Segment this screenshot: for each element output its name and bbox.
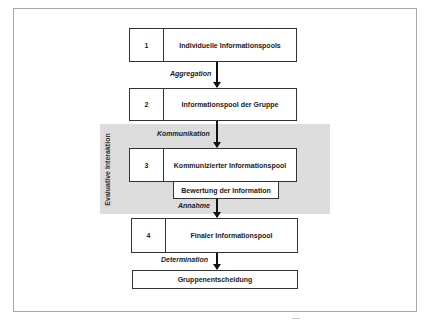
region-label: Evaluative Interaktion <box>100 124 114 214</box>
arrow-down-icon <box>216 62 218 87</box>
transition-determination: Determination <box>161 256 208 263</box>
step-1-number: 1 <box>130 29 164 61</box>
step-4-number: 4 <box>132 219 166 252</box>
arrow-down-icon <box>216 199 218 217</box>
transition-aggregation: Aggregation <box>170 70 211 77</box>
group-decision-box: Gruppenentscheidung <box>132 270 298 289</box>
step-1-label: Individuelle Informationspools <box>164 29 296 61</box>
step-2-label: Informationspool der Gruppe <box>164 89 296 120</box>
region-label-text: Evaluative Interaktion <box>104 133 111 205</box>
step-3-number: 3 <box>130 149 164 181</box>
step-2-box: 2 Informationspool der Gruppe <box>129 88 297 121</box>
step-3-box: 3 Kommunizierter Informationspool <box>129 148 297 182</box>
scan-artifact <box>292 318 300 322</box>
arrow-down-icon <box>216 253 218 269</box>
transition-kommunikation: Kommunikation <box>157 130 210 137</box>
transition-annahme: Annahme <box>178 202 210 209</box>
step-4-label: Finaler Informationspool <box>166 219 297 252</box>
step-4-box: 4 Finaler Informationspool <box>131 218 298 253</box>
arrow-down-icon <box>216 121 218 147</box>
step-2-number: 2 <box>130 89 164 120</box>
step-3-label: Kommunizierter Informationspool <box>164 149 296 181</box>
evaluation-sub-box: Bewertung der Information <box>173 181 279 199</box>
step-1-box: 1 Individuelle Informationspools <box>129 28 297 62</box>
